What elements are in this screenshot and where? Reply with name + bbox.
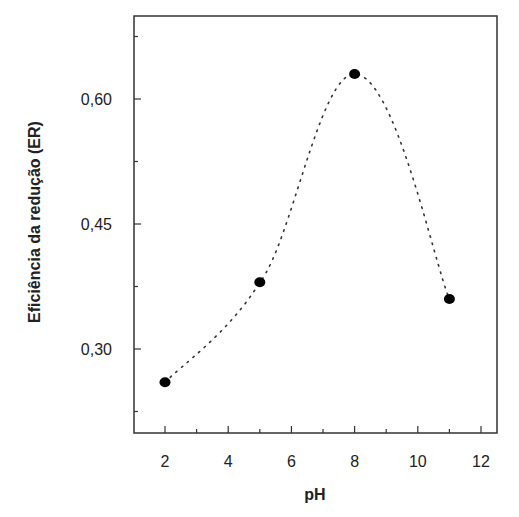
- fit-curve: [165, 74, 449, 382]
- y-tick-label: 0,45: [81, 216, 112, 233]
- x-tick-label: 10: [409, 453, 427, 470]
- data-point: [349, 69, 360, 79]
- data-points: [160, 69, 455, 387]
- y-tick-label: 0,60: [81, 91, 112, 108]
- data-point: [160, 377, 171, 387]
- chart: 24681012 0,300,450,60 pH Eficiência da r…: [0, 0, 519, 517]
- x-axis-title: pH: [304, 486, 325, 503]
- x-tick-label: 12: [472, 453, 490, 470]
- x-tick-label: 8: [350, 453, 359, 470]
- y-tick-label: 0,30: [81, 341, 112, 358]
- y-axis-title: Eficiência da redução (ER): [26, 121, 43, 323]
- x-tick-label: 2: [161, 453, 170, 470]
- plot-frame: [134, 16, 497, 433]
- data-point: [444, 294, 455, 304]
- x-tick-label: 6: [287, 453, 296, 470]
- y-axis-ticks: 0,300,450,60: [81, 37, 141, 412]
- x-tick-label: 4: [224, 453, 233, 470]
- data-point: [254, 277, 265, 287]
